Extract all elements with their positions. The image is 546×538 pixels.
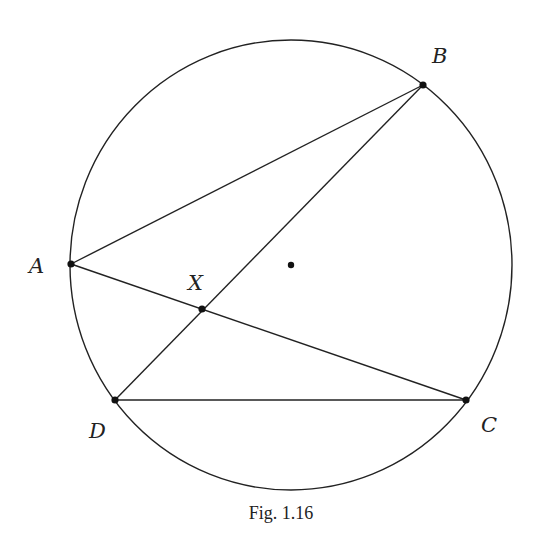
labeled-points: ABCDX	[27, 44, 497, 443]
point-label-a: A	[27, 254, 44, 278]
point-x	[198, 305, 205, 312]
chords	[71, 85, 466, 400]
figure-caption: Fig. 1.16	[249, 503, 314, 523]
point-label-c: C	[481, 413, 497, 437]
segment-ab	[71, 85, 423, 264]
point-b	[419, 81, 426, 88]
point-c	[462, 396, 469, 403]
point-label-d: D	[88, 419, 106, 443]
circle-diagram: ABCDX Fig. 1.16	[0, 0, 546, 538]
point-label-x: X	[186, 271, 204, 295]
segment-ac	[71, 264, 466, 400]
center-point	[288, 262, 294, 268]
point-d	[111, 396, 118, 403]
point-label-b: B	[431, 44, 447, 68]
segment-bd	[115, 85, 423, 400]
point-a	[67, 260, 74, 267]
